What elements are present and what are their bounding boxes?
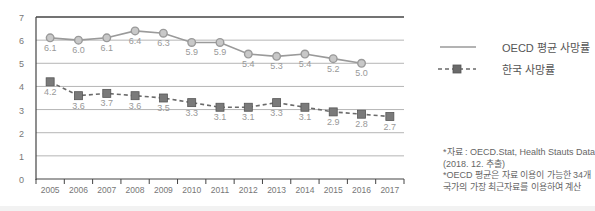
svg-text:3.1: 3.1 [214,112,227,122]
svg-text:6.1: 6.1 [101,43,114,53]
note-oecd-avg-cont: 국가의 가장 최근자료를 이용하여 계산 [443,182,593,194]
svg-text:2.9: 2.9 [327,117,340,127]
bottom-divider [0,206,595,211]
svg-text:5.9: 5.9 [185,47,198,57]
solid-line-icon [436,41,492,53]
svg-text:5.3: 5.3 [270,61,283,71]
dashed-square-marker-icon [436,63,492,75]
svg-text:1: 1 [19,152,24,162]
svg-text:3.3: 3.3 [185,108,198,118]
svg-text:6.4: 6.4 [129,36,142,46]
svg-text:2014: 2014 [295,185,314,195]
svg-text:2013: 2013 [267,185,286,195]
svg-text:4: 4 [19,82,24,92]
note-source: *자료 : OECD.Stat, Health Stauts Data [443,147,593,159]
svg-text:7: 7 [19,13,24,23]
svg-text:2.8: 2.8 [355,119,368,129]
svg-text:3.5: 3.5 [157,103,170,113]
svg-text:5.0: 5.0 [355,68,368,78]
svg-text:5: 5 [19,59,24,69]
svg-text:2008: 2008 [126,185,145,195]
svg-text:5.9: 5.9 [214,47,227,57]
svg-text:2007: 2007 [97,185,116,195]
svg-text:2012: 2012 [239,185,258,195]
svg-text:6.1: 6.1 [44,43,57,53]
svg-text:2.7: 2.7 [384,122,397,132]
svg-text:0: 0 [19,175,24,185]
svg-text:4.2: 4.2 [44,87,57,97]
svg-text:2010: 2010 [182,185,201,195]
source-notes: *자료 : OECD.Stat, Health Stauts Data (201… [443,147,593,193]
legend-item-korea: 한국 사망률 [436,58,590,80]
legend-label-korea: 한국 사망률 [502,61,555,77]
svg-text:3.1: 3.1 [299,112,312,122]
note-date: (2018. 12. 추출) [443,159,593,171]
svg-text:5.4: 5.4 [242,59,255,69]
svg-text:2: 2 [19,129,24,139]
svg-text:3.7: 3.7 [101,98,114,108]
svg-text:3: 3 [19,106,24,116]
legend-item-oecd: OECD 평균 사망률 [436,36,590,58]
svg-text:2005: 2005 [41,185,60,195]
svg-text:5.4: 5.4 [299,59,312,69]
svg-text:6.0: 6.0 [72,45,85,55]
svg-text:2016: 2016 [352,185,371,195]
svg-text:3.3: 3.3 [270,108,283,118]
svg-text:3.1: 3.1 [242,112,255,122]
svg-text:2015: 2015 [324,185,343,195]
svg-text:3.6: 3.6 [72,101,85,111]
svg-text:6: 6 [19,36,24,46]
line-chart: 0123456720052006200720082009201020112012… [0,0,420,205]
svg-text:2011: 2011 [211,185,230,195]
svg-text:2006: 2006 [69,185,88,195]
chart-legend: OECD 평균 사망률 한국 사망률 [436,36,590,80]
legend-label-oecd: OECD 평균 사망률 [502,39,590,55]
note-oecd-avg: *OECD 평균은 자료 이용이 가능한 34개 [443,170,593,182]
svg-text:2017: 2017 [380,185,399,195]
svg-text:6.3: 6.3 [157,38,170,48]
svg-text:2009: 2009 [154,185,173,195]
svg-text:3.6: 3.6 [129,101,142,111]
svg-text:5.2: 5.2 [327,64,340,74]
